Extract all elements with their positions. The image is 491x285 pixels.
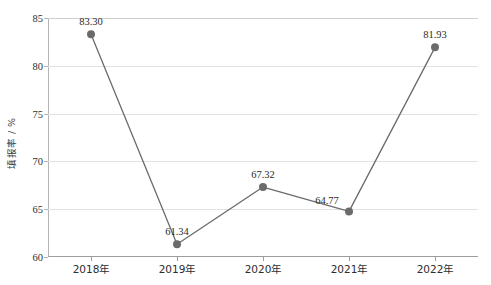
y-tick-label: 70 [33, 156, 44, 167]
line-chart: 填报率 / % 606570758085 83.3061.3467.3264.7… [0, 0, 491, 285]
data-point-marker [431, 43, 439, 51]
series-polyline [91, 34, 435, 244]
y-tick-label: 60 [33, 252, 44, 263]
x-tick-label: 2018年 [73, 261, 110, 276]
data-point-marker [173, 240, 181, 248]
y-tick-label: 80 [33, 60, 44, 71]
data-point-marker [345, 207, 353, 215]
x-tick-label: 2022年 [417, 261, 454, 276]
data-point-label: 67.32 [251, 169, 275, 180]
data-point-marker [87, 30, 95, 38]
plot-area: 83.3061.3467.3264.7781.93 [48, 18, 478, 257]
data-point-label: 61.34 [165, 226, 189, 237]
x-tick-label: 2021年 [331, 261, 368, 276]
y-tick-label: 75 [33, 108, 44, 119]
data-point-label: 83.30 [79, 16, 103, 27]
series-line [48, 18, 478, 257]
y-axis-title-label: 填报率 / % [4, 117, 18, 168]
x-tick-label: 2019年 [159, 261, 196, 276]
data-point-marker [259, 183, 267, 191]
y-tick-label: 65 [33, 204, 44, 215]
x-tick-label: 2020年 [245, 261, 282, 276]
y-tick-mark [44, 257, 48, 258]
data-point-label: 64.77 [315, 195, 339, 206]
data-point-label: 81.93 [423, 29, 447, 40]
y-axis-tick-labels: 606570758085 [20, 0, 46, 285]
y-axis-title: 填报率 / % [0, 0, 22, 285]
x-axis-tick-labels: 2018年2019年2020年2021年2022年 [48, 261, 478, 283]
y-tick-label: 85 [33, 13, 44, 24]
